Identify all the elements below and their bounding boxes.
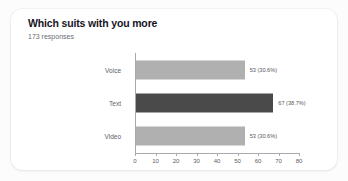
- x-tick-mark: [279, 153, 280, 156]
- card-header: Which suits with you more 173 responses: [28, 17, 278, 42]
- response-count: 173 responses: [28, 31, 278, 42]
- bar-value-label-voice: 53 (30.6%): [250, 67, 277, 73]
- category-label-voice: Voice: [105, 66, 121, 73]
- bar-value-label-video: 53 (30.6%): [250, 133, 277, 139]
- bar-value-label-text: 67 (38.7%): [278, 100, 305, 106]
- screenshot-root: Which suits with you more 173 responses …: [0, 0, 348, 181]
- category-label-video: Video: [104, 133, 121, 140]
- x-tick-mark: [238, 153, 239, 156]
- page-title: Which suits with you more: [28, 17, 278, 30]
- x-tick-label: 80: [296, 158, 303, 164]
- x-tick-mark: [156, 153, 157, 156]
- x-tick-label: 20: [173, 158, 180, 164]
- chart-card: Which suits with you more 173 responses …: [11, 9, 337, 170]
- x-tick-label: 50: [234, 158, 241, 164]
- x-tick-mark: [258, 153, 259, 156]
- x-tick-label: 30: [193, 158, 200, 164]
- bar-voice[interactable]: [136, 60, 245, 79]
- x-tick-label: 40: [214, 158, 221, 164]
- x-tick-label: 0: [133, 158, 136, 164]
- x-tick-label: 10: [152, 158, 159, 164]
- x-tick-label: 70: [275, 158, 282, 164]
- x-tick-label: 60: [255, 158, 262, 164]
- category-label-text: Text: [109, 100, 121, 107]
- category-axis-labels: VoiceTextVideo: [11, 53, 129, 153]
- x-tick-mark: [135, 153, 136, 156]
- bar-text[interactable]: [136, 94, 273, 113]
- bar-video[interactable]: [136, 127, 245, 146]
- x-tick-mark: [197, 153, 198, 156]
- x-tick-mark: [217, 153, 218, 156]
- x-tick-mark: [299, 153, 300, 156]
- bar-chart-plot: VoiceTextVideo 01020304050607080 53 (30.…: [11, 53, 337, 170]
- x-tick-mark: [176, 153, 177, 156]
